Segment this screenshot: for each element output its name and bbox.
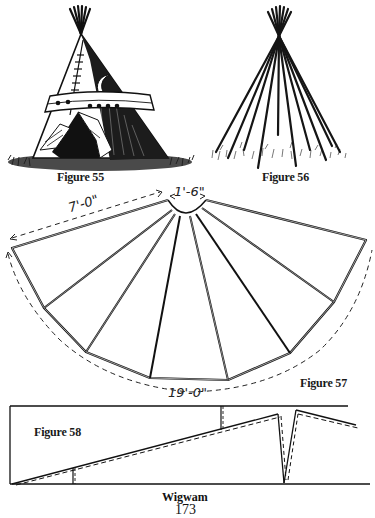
dimension-outer-arc-label: 19'-0": [168, 385, 207, 400]
dimension-top-opening-label: 1'-6": [174, 184, 205, 199]
illustrations: [0, 0, 375, 518]
figure-57-caption: Figure 57: [300, 376, 347, 391]
figure-57-diagram: [6, 190, 372, 392]
figure-56-illustration: [212, 6, 346, 168]
figure-55-caption: Figure 55: [57, 170, 104, 185]
book-page: Figure 55 Figure 56 Figure 57 Figure 58 …: [0, 0, 375, 518]
figure-58-caption: Figure 58: [34, 425, 81, 440]
figure-55-illustration: [8, 6, 194, 171]
page-number: 173: [175, 502, 196, 518]
figure-56-caption: Figure 56: [262, 170, 309, 185]
figure-58-diagram: [10, 406, 370, 485]
